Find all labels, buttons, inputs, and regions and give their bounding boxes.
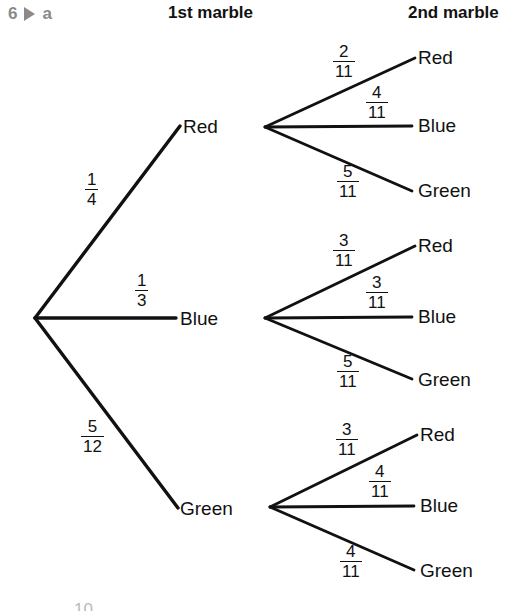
node-second-green-blue: Blue (420, 496, 458, 515)
fraction-numerator: 4 (369, 463, 391, 482)
fraction-denominator: 11 (337, 182, 359, 200)
branch-green-blue (270, 506, 414, 507)
fraction-denominator: 11 (336, 440, 358, 458)
fraction-denominator: 11 (333, 251, 355, 269)
probability-tree-page: 6a 1st marble 2nd marble Red Blue Green … (0, 0, 505, 611)
node-second-blue-green: Green (418, 370, 471, 389)
probability-first-green: 5 12 (81, 418, 104, 455)
fraction-numerator: 5 (337, 353, 359, 372)
probability-green-red: 3 11 (336, 421, 358, 458)
branch-red-blue (265, 126, 412, 127)
fraction-numerator: 3 (336, 421, 358, 440)
node-second-red-green: Green (418, 181, 471, 200)
node-first-green: Green (180, 499, 233, 518)
fraction-numerator: 4 (366, 84, 388, 103)
fraction-numerator: 1 (85, 171, 98, 190)
node-second-green-red: Red (420, 425, 455, 444)
node-second-red-blue: Blue (418, 116, 456, 135)
probability-red-red: 2 11 (333, 43, 355, 80)
fraction-numerator: 5 (81, 418, 104, 437)
probability-first-red: 1 4 (85, 171, 98, 208)
fraction-numerator: 5 (337, 163, 359, 182)
fraction-denominator: 12 (81, 437, 104, 455)
fraction-denominator: 11 (333, 62, 355, 80)
probability-blue-blue: 3 11 (366, 274, 388, 311)
fraction-denominator: 11 (337, 372, 359, 390)
fraction-numerator: 1 (135, 272, 148, 291)
probability-green-green: 4 11 (340, 543, 362, 580)
fraction-denominator: 3 (135, 291, 148, 309)
fraction-numerator: 3 (333, 232, 355, 251)
probability-first-blue: 1 3 (135, 272, 148, 309)
node-second-blue-blue: Blue (418, 307, 456, 326)
probability-blue-green: 5 11 (337, 353, 359, 390)
fraction-denominator: 11 (366, 103, 388, 121)
branch-root-red (35, 126, 180, 318)
fraction-denominator: 4 (85, 190, 98, 208)
probability-red-blue: 4 11 (366, 84, 388, 121)
fraction-denominator: 11 (366, 293, 388, 311)
node-second-green-green: Green (420, 561, 473, 580)
node-first-blue: Blue (180, 309, 218, 328)
probability-blue-red: 3 11 (333, 232, 355, 269)
probability-green-blue: 4 11 (369, 463, 391, 500)
fraction-denominator: 11 (340, 562, 362, 580)
fraction-denominator: 11 (369, 482, 391, 500)
fraction-numerator: 2 (333, 43, 355, 62)
branch-root-green (35, 318, 178, 508)
branch-blue-blue (265, 317, 412, 318)
node-second-red-red: Red (418, 48, 453, 67)
node-first-red: Red (183, 117, 218, 136)
fraction-numerator: 3 (366, 274, 388, 293)
cropped-partial-fraction: 10 (74, 601, 93, 611)
fraction-numerator: 4 (340, 543, 362, 562)
probability-red-green: 5 11 (337, 163, 359, 200)
node-second-blue-red: Red (418, 236, 453, 255)
